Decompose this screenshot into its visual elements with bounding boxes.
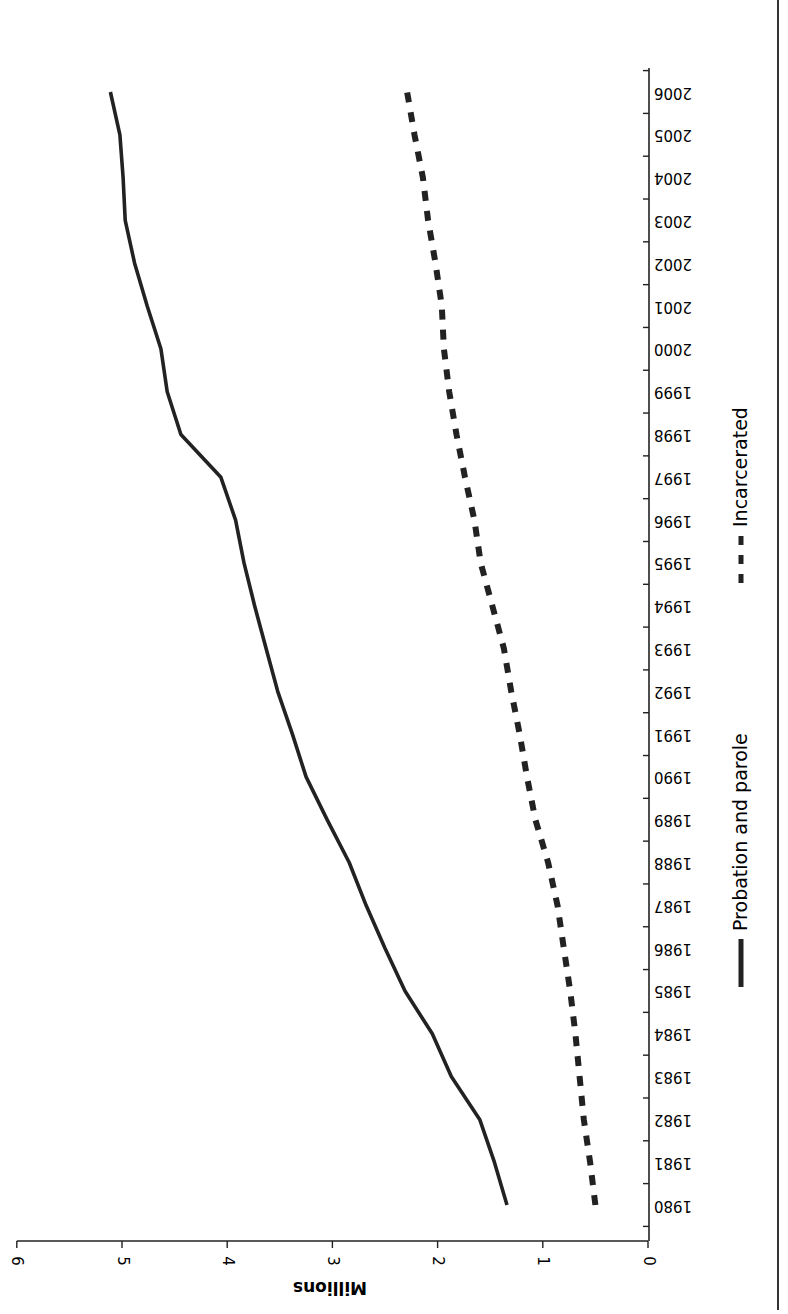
value-tick-label: 5 — [114, 1256, 132, 1266]
category-tick-label: 1994 — [654, 597, 692, 615]
category-tick-label: 2004 — [654, 169, 692, 187]
category-tick-label: 1996 — [654, 512, 692, 530]
category-tick-label: 1995 — [654, 554, 692, 572]
category-tick-label: 1990 — [654, 768, 692, 786]
category-axis: 1980198119821983198419851986198719881989… — [643, 68, 692, 1241]
legend-label: Probation and parole — [729, 733, 751, 931]
category-tick-label: 1987 — [654, 897, 692, 915]
category-tick-label: 1999 — [654, 383, 692, 401]
category-tick-label: 1991 — [654, 726, 692, 744]
category-tick-label: 1980 — [654, 1197, 692, 1215]
category-tick-label: 1986 — [654, 940, 692, 958]
category-tick-label: 1983 — [654, 1068, 692, 1086]
value-tick-label: 3 — [324, 1256, 342, 1266]
category-tick-label: 1993 — [654, 640, 692, 658]
category-tick-label: 1984 — [654, 1025, 692, 1043]
category-tick-label: 2002 — [654, 255, 692, 273]
category-tick-label: 2005 — [654, 126, 692, 144]
category-tick-label: 2003 — [654, 212, 692, 230]
value-tick-label: 2 — [429, 1256, 447, 1266]
value-tick-label: 1 — [534, 1256, 552, 1266]
value-axis-title: Millions — [293, 1278, 367, 1298]
category-tick-label: 1982 — [654, 1111, 692, 1129]
value-tick-label: 0 — [640, 1256, 658, 1266]
value-tick-label: 6 — [8, 1256, 26, 1266]
series-line-probation-and-parole — [110, 92, 507, 1205]
series-layer — [110, 92, 595, 1205]
legend-label: Incarcerated — [729, 407, 751, 527]
value-axis: 0123456 — [8, 1241, 657, 1266]
category-tick-label: 2000 — [654, 340, 692, 358]
category-tick-label: 1997 — [654, 469, 692, 487]
line-chart: 0123456 19801981198219831984198519861987… — [0, 0, 788, 1314]
category-tick-label: 1998 — [654, 426, 692, 444]
legend: Probation and paroleIncarcerated — [729, 407, 751, 987]
category-tick-label: 1985 — [654, 982, 692, 1000]
category-tick-label: 2001 — [654, 298, 692, 316]
value-tick-label: 4 — [219, 1256, 237, 1266]
category-tick-label: 1989 — [654, 811, 692, 829]
category-tick-label: 2006 — [654, 84, 692, 102]
category-tick-label: 1988 — [654, 854, 692, 872]
category-tick-label: 1981 — [654, 1154, 692, 1172]
category-tick-label: 1992 — [654, 683, 692, 701]
